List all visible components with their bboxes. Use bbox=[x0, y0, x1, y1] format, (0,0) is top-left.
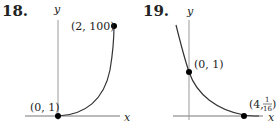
svg-text:(4,: (4, bbox=[249, 98, 264, 111]
graph-18-plot: y x (0, 1) (2, 100) bbox=[0, 0, 138, 126]
label-0-1: (0, 1) bbox=[194, 58, 224, 71]
x-axis-label: x bbox=[124, 111, 131, 124]
label-4-1-16: (4, 1 16 ) bbox=[249, 96, 276, 113]
growth-curve bbox=[58, 26, 114, 116]
label-0-1: (0, 1) bbox=[30, 101, 60, 114]
y-axis-label: y bbox=[53, 3, 61, 16]
y-axis-label: y bbox=[186, 5, 194, 18]
point-4-1-16 bbox=[241, 113, 247, 119]
label-2-100: (2, 100) bbox=[71, 20, 115, 33]
graph-19: 19. y x (0, 1) (4, 1 16 ) bbox=[139, 0, 277, 126]
point-0-1 bbox=[186, 69, 192, 75]
graph-19-plot: y x (0, 1) (4, 1 16 ) bbox=[139, 0, 277, 126]
graph-18: 18. y x (0, 1) (2, 100) bbox=[0, 0, 138, 126]
svg-text:): ) bbox=[272, 98, 276, 111]
svg-text:1: 1 bbox=[265, 96, 269, 104]
